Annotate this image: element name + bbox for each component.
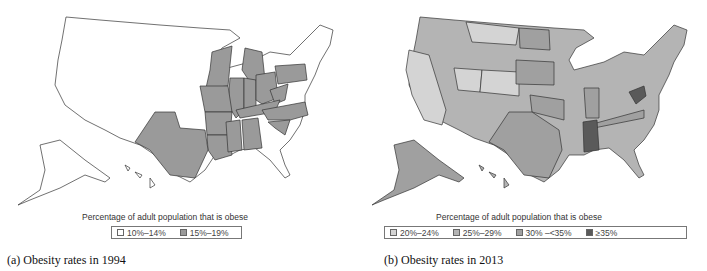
legend-item: 30% –<35%	[516, 228, 572, 238]
legend-label: 30% –<35%	[526, 228, 572, 238]
legend-item: 20%–24%	[390, 228, 439, 238]
legend-label: 10%–14%	[127, 228, 166, 238]
legend-1994: 10%–14% 15%–19%	[111, 226, 242, 239]
legend-label: 25%–29%	[463, 228, 502, 238]
legend-label: ≥35%	[596, 228, 618, 238]
us-map-2013	[354, 0, 707, 220]
swatch-30-35	[516, 229, 523, 236]
caption-b: (b) Obesity rates in 2013	[384, 253, 503, 268]
swatch-20-24	[390, 229, 397, 236]
legend-item: ≥35%	[586, 228, 618, 238]
legend-item: 15%–19%	[180, 228, 229, 238]
swatch-25-29	[453, 229, 460, 236]
legend-2013: 20%–24% 25%–29% 30% –<35% ≥35%	[384, 226, 687, 239]
caption-a: (a) Obesity rates in 1994	[7, 253, 126, 268]
legend-title: Percentage of adult population that is o…	[82, 212, 248, 222]
legend-label: 15%–19%	[190, 228, 229, 238]
legend-label: 20%–24%	[400, 228, 439, 238]
swatch-15-19	[180, 229, 187, 236]
panel-1994: Percentage of adult population that is o…	[0, 0, 354, 271]
us-map-1994	[0, 0, 354, 220]
panel-2013: Percentage of adult population that is o…	[354, 0, 707, 271]
swatch-10-14	[117, 229, 124, 236]
legend-item: 25%–29%	[453, 228, 502, 238]
legend-item: 10%–14%	[117, 228, 166, 238]
swatch-35-plus	[586, 229, 593, 236]
legend-title: Percentage of adult population that is o…	[436, 212, 602, 222]
